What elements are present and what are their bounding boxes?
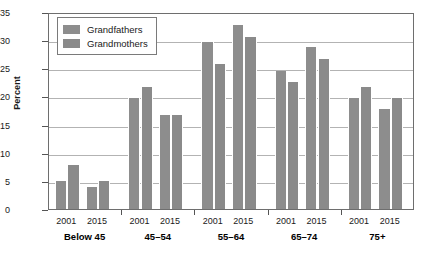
x-axis-tick-label: 2015 (150, 216, 190, 226)
x-axis-tick-label: 2015 (77, 216, 117, 226)
x-axis-tick-label: 2015 (370, 216, 410, 226)
y-axis-tick-label: 0 (0, 205, 10, 215)
x-axis-group-label: 75+ (332, 231, 422, 242)
bar (318, 59, 330, 209)
bar (287, 82, 299, 209)
legend-label-grandfathers: Grandfathers (87, 24, 142, 35)
legend-item: Grandfathers (63, 22, 148, 36)
x-axis-tick-label: 2015 (297, 216, 337, 226)
legend-swatch-grandfathers (63, 25, 80, 34)
bar (378, 109, 390, 209)
bar (141, 87, 153, 209)
x-axis-group-separator (268, 210, 269, 215)
y-axis-tick-label: 25 (0, 64, 10, 74)
bar (232, 25, 244, 209)
bar (348, 98, 360, 209)
y-axis-tick-label: 35 (0, 8, 10, 18)
y-axis-tick-label: 5 (0, 177, 10, 187)
bar (391, 98, 403, 209)
legend-swatch-grandmothers (63, 39, 80, 48)
bar (214, 64, 226, 209)
x-axis-group-separator (341, 210, 342, 215)
bar (98, 181, 110, 209)
bar-chart: Percent 05101520253035 20012015200120152… (0, 0, 432, 263)
x-axis-group-separator (194, 210, 195, 215)
y-axis-tick-label: 15 (0, 121, 10, 131)
legend-item: Grandmothers (63, 36, 148, 50)
bar (86, 187, 98, 209)
bar (67, 165, 79, 209)
x-axis-group-separator (121, 210, 122, 215)
bar (360, 87, 372, 209)
legend-label-grandmothers: Grandmothers (87, 38, 148, 49)
bar (201, 42, 213, 209)
bar (128, 98, 140, 209)
y-axis-tick-label: 30 (0, 36, 10, 46)
y-axis-tick-label: 20 (0, 92, 10, 102)
bar (159, 115, 171, 209)
legend: Grandfathers Grandmothers (57, 17, 157, 55)
y-axis-title: Percent (12, 53, 22, 133)
x-axis-tick-label: 2015 (223, 216, 263, 226)
bar (55, 181, 67, 209)
bar (171, 115, 183, 209)
y-axis-tick-mark (42, 210, 48, 211)
bar (275, 71, 287, 209)
bar (305, 47, 317, 209)
bar (244, 37, 256, 209)
y-axis-tick-label: 10 (0, 149, 10, 159)
